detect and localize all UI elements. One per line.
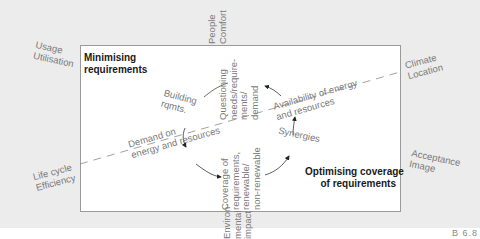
label-people-comfort: People Comfort: [207, 10, 228, 44]
heading-minimising-requirements: Minimising requirements: [84, 52, 147, 76]
arrow-demand-coverage: [196, 164, 221, 177]
heading-optimising-coverage: Optimising coverage of requirements: [305, 166, 396, 190]
label-questioning-needs: Questioning needs/require- ments/ demand: [218, 59, 260, 120]
figure-number: B 6.8: [452, 228, 478, 238]
arrow-availability-questioning: [265, 86, 281, 96]
arrow-coverage-synergies: [265, 156, 289, 175]
label-coverage-requirements: Coverage of requirements, renewable/ non…: [220, 147, 262, 210]
